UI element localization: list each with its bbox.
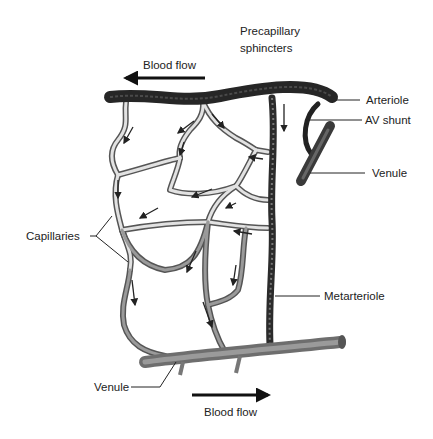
capillary-network xyxy=(112,102,268,356)
venule-bottom-vessel xyxy=(145,335,346,375)
precapillary-label-line1: Precapillary xyxy=(240,25,300,37)
metarteriole-label: Metarteriole xyxy=(324,290,385,302)
blood-flow-label-top: Blood flow xyxy=(143,59,197,71)
arteriole-vessel xyxy=(110,87,332,99)
diagram-canvas: Precapillary sphincters Blood flow Arter… xyxy=(0,0,433,439)
precapillary-label-line2: sphincters xyxy=(240,42,293,54)
blood-flow-label-bottom: Blood flow xyxy=(204,406,258,418)
venule-right-label: Venule xyxy=(372,167,407,179)
flow-arrows xyxy=(118,104,284,327)
capillaries-label: Capillaries xyxy=(26,230,80,242)
venule-bottom-label: Venule xyxy=(94,381,129,393)
arteriole-label: Arteriole xyxy=(366,94,409,106)
av-shunt-label: AV shunt xyxy=(365,114,412,126)
